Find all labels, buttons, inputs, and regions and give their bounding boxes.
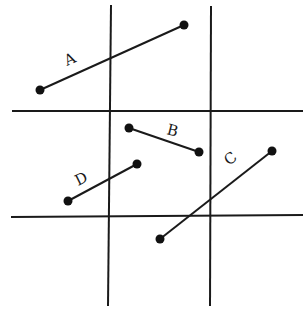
segment-b-end-dot xyxy=(195,148,204,157)
segment-b-start-dot xyxy=(125,124,134,133)
segment-a: A xyxy=(36,21,189,95)
diagram-svg: ABCD xyxy=(0,0,306,311)
horizontal-grid-line-2 xyxy=(11,215,303,217)
segment-a-end-dot xyxy=(180,21,189,30)
segment-d-label: D xyxy=(72,168,91,189)
segment-grid-diagram: ABCD xyxy=(0,0,306,311)
segment-d-end-dot xyxy=(133,160,142,169)
segment-d: D xyxy=(64,160,142,206)
segment-d-start-dot xyxy=(64,197,73,206)
segment-a-label: A xyxy=(60,49,78,70)
segment-b-line xyxy=(129,128,199,152)
segment-c: C xyxy=(156,147,277,244)
vertical-grid-line-2 xyxy=(210,6,211,306)
vertical-grid-line-1 xyxy=(108,5,111,306)
segment-c-line xyxy=(160,151,272,239)
segment-b: B xyxy=(125,120,204,156)
segment-b-label: B xyxy=(165,120,180,140)
segment-a-line xyxy=(40,25,184,90)
segment-c-end-dot xyxy=(268,147,277,156)
segment-c-label: C xyxy=(220,148,240,169)
segment-a-start-dot xyxy=(36,86,45,95)
segment-c-start-dot xyxy=(156,235,165,244)
